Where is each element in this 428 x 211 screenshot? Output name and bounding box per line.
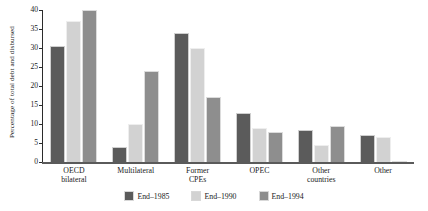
legend-item[interactable]: End–1990	[191, 191, 236, 201]
legend-swatch-icon	[259, 191, 269, 201]
legend-label: End–1990	[204, 192, 236, 201]
bar	[128, 124, 143, 162]
x-axis-category-label: Multilateral	[105, 166, 167, 190]
y-axis-tick-label: 5	[16, 139, 38, 147]
legend-item[interactable]: End–1994	[259, 191, 304, 201]
y-axis-tick-label: 20	[16, 82, 38, 90]
x-axis-category-label-line: Former	[167, 166, 229, 175]
bar	[82, 10, 97, 162]
x-axis-category-label: Othercountries	[290, 166, 352, 190]
bar	[112, 147, 127, 162]
x-axis-category-label: OECDbilateral	[43, 166, 105, 190]
x-axis-labels: OECDbilateralMultilateralFormerCPEsOPECO…	[43, 166, 414, 190]
bar-group	[352, 10, 414, 162]
y-axis-title: Percentage of total debt and disbursed	[8, 4, 16, 160]
x-axis-category-label-line: bilateral	[43, 175, 105, 184]
y-axis-tick-label: 25	[16, 63, 38, 71]
bar	[50, 46, 65, 162]
y-axis-tick-label: 40	[16, 6, 38, 14]
bar	[314, 145, 329, 162]
bar-group	[228, 10, 290, 162]
bar	[206, 97, 221, 162]
y-axis-tick-label: 0	[16, 158, 38, 166]
x-axis-category-label-line: OECD	[43, 166, 105, 175]
bar	[330, 126, 345, 162]
x-axis-category-label: OPEC	[228, 166, 290, 190]
bar-group	[167, 10, 229, 162]
bar	[268, 132, 283, 162]
bar	[252, 128, 267, 162]
plot-area: 0510152025303540	[42, 10, 414, 162]
x-axis-category-label-line: countries	[290, 175, 352, 184]
x-axis-line	[42, 162, 414, 164]
bar-group	[43, 10, 105, 162]
bar	[376, 137, 391, 162]
bar	[298, 130, 313, 162]
bar-group	[290, 10, 352, 162]
x-axis-category-label-line: Multilateral	[105, 166, 167, 175]
y-axis-tick-label: 15	[16, 101, 38, 109]
x-axis-category-label-line: CPEs	[167, 175, 229, 184]
bar-groups	[43, 10, 414, 162]
y-axis-tick-label: 10	[16, 120, 38, 128]
legend-label: End–1994	[272, 192, 304, 201]
x-axis-category-label-line: OPEC	[228, 166, 290, 175]
bar	[144, 71, 159, 162]
bar	[360, 135, 375, 162]
legend-swatch-icon	[191, 191, 201, 201]
bar	[174, 33, 189, 162]
y-axis-tick-label: 30	[16, 44, 38, 52]
bar	[190, 48, 205, 162]
bar	[66, 21, 81, 162]
legend-label: End–1985	[137, 192, 169, 201]
legend-swatch-icon	[124, 191, 134, 201]
x-axis-category-label: FormerCPEs	[167, 166, 229, 190]
bar-group	[105, 10, 167, 162]
bar	[236, 113, 251, 162]
x-axis-category-label-line: Other	[290, 166, 352, 175]
bar-chart-figure: Percentage of total debt and disbursed 0…	[0, 0, 428, 211]
chart-legend: End–1985End–1990End–1994	[0, 191, 428, 201]
y-axis-tick-label: 35	[16, 25, 38, 33]
x-axis-category-label: Other	[352, 166, 414, 190]
legend-item[interactable]: End–1985	[124, 191, 169, 201]
x-axis-category-label-line: Other	[352, 166, 414, 175]
